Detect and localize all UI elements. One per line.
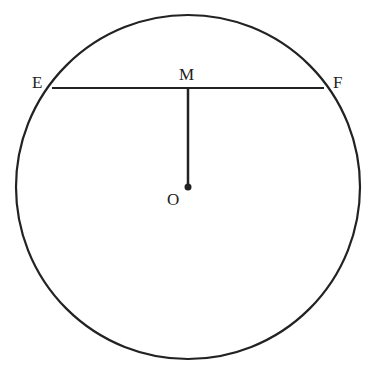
label-o: O	[167, 190, 179, 209]
center-point-o	[185, 184, 192, 191]
circle-chord-diagram: E F M O	[0, 0, 369, 366]
label-m: M	[179, 65, 194, 84]
label-f: F	[333, 73, 342, 92]
label-e: E	[32, 73, 42, 92]
